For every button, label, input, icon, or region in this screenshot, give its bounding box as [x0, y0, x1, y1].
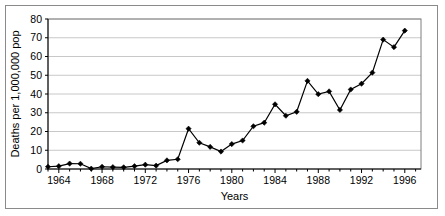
x-tick-label-1972: 1972	[134, 174, 158, 186]
y-tick-label-30: 30	[30, 106, 42, 118]
x-tick-label-1984: 1984	[263, 174, 287, 186]
y-tick-label-80: 80	[30, 13, 42, 25]
y-tick-label-20: 20	[30, 125, 42, 137]
y-axis-title: Deaths per 1,000,000 pop	[9, 30, 21, 157]
y-tick-label-40: 40	[30, 88, 42, 100]
x-axis-ticks: 196419681972197619801984198819921996	[47, 169, 416, 186]
x-tick-label-1980: 1980	[220, 174, 244, 186]
x-tick-label-1988: 1988	[307, 174, 331, 186]
x-tick-label-1996: 1996	[393, 174, 417, 186]
y-tick-label-50: 50	[30, 69, 42, 81]
x-tick-label-1992: 1992	[350, 174, 374, 186]
x-tick-label-1968: 1968	[90, 174, 114, 186]
y-tick-label-70: 70	[30, 31, 42, 43]
line-chart: 01020304050607080 1964196819721976198019…	[0, 0, 445, 216]
y-axis-ticks: 01020304050607080	[30, 13, 48, 175]
x-tick-label-1964: 1964	[47, 174, 71, 186]
y-tick-label-10: 10	[30, 144, 42, 156]
x-axis-title: Years	[221, 190, 249, 202]
y-tick-label-0: 0	[36, 163, 42, 175]
y-tick-label-60: 60	[30, 50, 42, 62]
chart-figure: 01020304050607080 1964196819721976198019…	[0, 0, 445, 216]
x-tick-label-1976: 1976	[177, 174, 201, 186]
